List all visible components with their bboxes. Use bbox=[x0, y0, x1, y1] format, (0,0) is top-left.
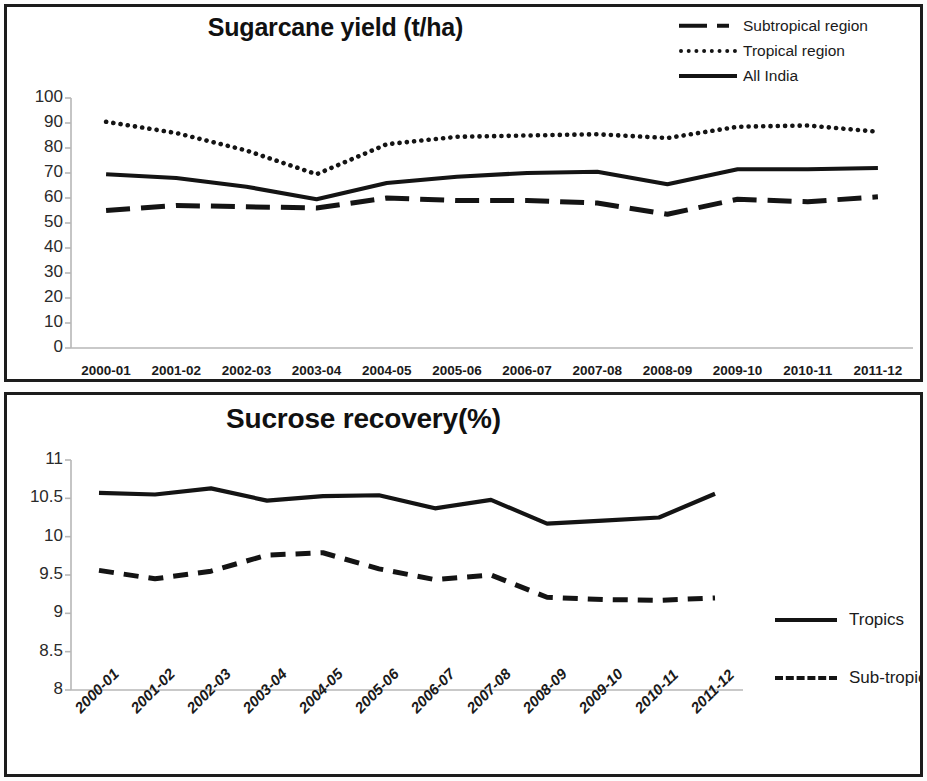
y-axis-tick-label: 9 bbox=[11, 602, 63, 622]
y-axis-tick-label: 9.5 bbox=[11, 564, 63, 584]
x-axis-tick-label: 2000-01 bbox=[66, 363, 146, 378]
x-axis-tick-label: 2011-12 bbox=[838, 363, 918, 378]
figure-root: Sugarcane yield (t/ha) Subtropical regio… bbox=[0, 0, 927, 781]
y-axis-tick-label: 20 bbox=[11, 287, 63, 307]
y-axis-tick-label: 10 bbox=[11, 526, 63, 546]
x-axis-tick-label: 2005-06 bbox=[417, 363, 497, 378]
sugarcane-yield-plot bbox=[7, 7, 920, 379]
y-axis-tick-label: 80 bbox=[11, 137, 63, 157]
sugarcane-yield-panel: Sugarcane yield (t/ha) Subtropical regio… bbox=[4, 4, 923, 382]
sugarcane-yield-chart: Sugarcane yield (t/ha) Subtropical regio… bbox=[7, 7, 920, 379]
sucrose-recovery-chart: Sucrose recovery(%) Tropics Sub-tropics … bbox=[7, 395, 920, 774]
sucrose-recovery-panel: Sucrose recovery(%) Tropics Sub-tropics … bbox=[4, 392, 923, 777]
y-axis-tick-label: 90 bbox=[11, 112, 63, 132]
x-axis-tick-label: 2006-07 bbox=[487, 363, 567, 378]
y-axis-tick-label: 0 bbox=[11, 337, 63, 357]
y-axis-tick-label: 40 bbox=[11, 237, 63, 257]
y-axis-tick-label: 30 bbox=[11, 262, 63, 282]
y-axis-tick-label: 10.5 bbox=[11, 487, 63, 507]
y-axis-tick-label: 8 bbox=[11, 679, 63, 699]
sucrose-recovery-plot bbox=[7, 395, 920, 774]
y-axis-tick-label: 70 bbox=[11, 162, 63, 182]
y-axis-tick-label: 8.5 bbox=[11, 641, 63, 661]
x-axis-tick-label: 2004-05 bbox=[347, 363, 427, 378]
x-axis-tick-label: 2001-02 bbox=[136, 363, 216, 378]
x-axis-tick-label: 2003-04 bbox=[277, 363, 357, 378]
y-axis-tick-label: 60 bbox=[11, 187, 63, 207]
x-axis-tick-label: 2007-08 bbox=[557, 363, 637, 378]
x-axis-tick-label: 2010-11 bbox=[768, 363, 848, 378]
y-axis-tick-label: 50 bbox=[11, 212, 63, 232]
x-axis-tick-label: 2009-10 bbox=[698, 363, 778, 378]
x-axis-tick-label: 2008-09 bbox=[627, 363, 707, 378]
y-axis-tick-label: 10 bbox=[11, 312, 63, 332]
y-axis-tick-label: 100 bbox=[11, 87, 63, 107]
x-axis-tick-label: 2002-03 bbox=[206, 363, 286, 378]
y-axis-tick-label: 11 bbox=[11, 449, 63, 469]
